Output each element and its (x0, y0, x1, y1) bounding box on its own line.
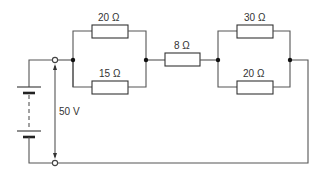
terminal-top (52, 57, 57, 62)
parallel-group-left: 20 Ω 15 Ω (73, 12, 146, 94)
junction-dot-3 (216, 58, 220, 62)
resistor-label-top-right: 30 Ω (244, 12, 266, 23)
junction-dot-2 (144, 58, 148, 62)
parallel-group-right: 30 Ω 20 Ω (218, 12, 290, 94)
junction-dot-1 (71, 58, 75, 62)
wire-left-right-side (128, 31, 146, 87)
wire-battery-top (29, 60, 55, 87)
wire-right-left-side (218, 31, 237, 87)
resistor-20-ohm-top (92, 25, 128, 38)
arrow-up-icon (53, 64, 57, 70)
resistor-8-ohm (165, 53, 200, 66)
wire-left-top (73, 31, 92, 87)
junction-dot-4 (288, 58, 292, 62)
wire-left-bottom (73, 60, 92, 87)
series-resistor: 8 Ω (146, 40, 218, 66)
terminal-bottom (52, 160, 57, 165)
voltage-label: 50 V (59, 106, 80, 117)
wire-right-right-side (273, 31, 290, 87)
resistor-label-bottom-right: 20 Ω (243, 68, 265, 79)
resistor-20-ohm-bottom (237, 81, 273, 94)
arrow-down-icon (53, 153, 57, 159)
resistor-30-ohm (237, 25, 273, 38)
resistor-15-ohm (92, 81, 128, 94)
resistor-label-bottom-left: 15 Ω (99, 68, 121, 79)
resistor-label-series: 8 Ω (174, 40, 190, 51)
battery (17, 60, 55, 163)
voltage-indicator: 50 V (53, 64, 80, 159)
wire-battery-bottom (29, 137, 55, 163)
circuit-diagram: 50 V 20 Ω 15 Ω 8 Ω 30 Ω 20 Ω (0, 0, 324, 175)
wire-return (58, 60, 308, 163)
resistor-label-top-left: 20 Ω (98, 12, 120, 23)
